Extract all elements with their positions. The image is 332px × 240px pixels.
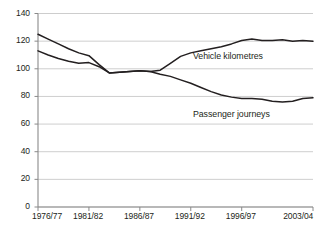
data-series-lines xyxy=(38,34,313,102)
gridlines xyxy=(38,14,313,208)
chart-plot-area xyxy=(0,0,332,240)
x-tick-label: 1976/77 xyxy=(32,212,62,221)
y-tick-label: 20 xyxy=(4,174,30,183)
axis-lines xyxy=(38,14,313,208)
x-tick-label: 1996/97 xyxy=(226,212,256,221)
x-tick-label: 1986/87 xyxy=(124,212,154,221)
y-tick-label: 120 xyxy=(4,36,30,45)
y-tick-label: 40 xyxy=(4,147,30,156)
y-tick-label: 60 xyxy=(4,119,30,128)
y-tick-label: 80 xyxy=(4,91,30,100)
y-tick-label: 100 xyxy=(4,64,30,73)
x-tick-label: 1991/92 xyxy=(175,212,205,221)
series-line-1 xyxy=(38,51,313,102)
line-chart: 020406080100120140 1976/771981/821986/87… xyxy=(0,0,332,240)
x-tick-label: 2003/04 xyxy=(283,212,313,221)
series-annotation: Passenger journeys xyxy=(193,109,270,119)
x-tick-label: 1981/82 xyxy=(73,212,103,221)
series-annotation: Vehicle kilometres xyxy=(193,51,263,61)
y-tick-label: 0 xyxy=(4,202,30,211)
y-tick-label: 140 xyxy=(4,9,30,18)
series-line-0 xyxy=(38,34,313,73)
